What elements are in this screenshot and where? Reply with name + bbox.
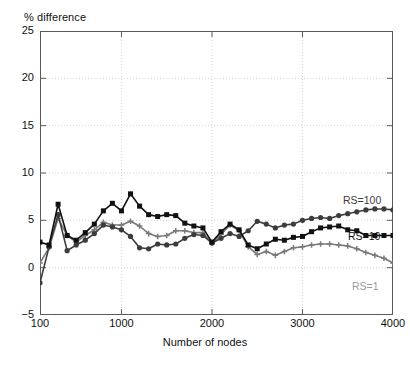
data-point-marker	[191, 232, 196, 237]
data-point-marker	[237, 234, 242, 239]
data-point-marker	[255, 219, 260, 224]
data-point-marker	[336, 242, 342, 248]
data-point-marker	[155, 214, 160, 219]
data-point-marker	[372, 206, 377, 211]
data-point-marker	[219, 229, 224, 234]
data-point-marker	[391, 233, 394, 238]
data-point-marker	[83, 238, 88, 243]
y-axis-title: % difference	[24, 11, 86, 23]
data-point-marker	[309, 216, 314, 221]
data-point-marker	[137, 204, 142, 209]
data-point-marker	[381, 206, 386, 211]
data-point-marker	[300, 218, 305, 223]
data-point-marker	[47, 242, 52, 247]
data-point-marker	[128, 234, 133, 239]
data-point-marker	[291, 235, 296, 240]
data-point-marker	[273, 225, 278, 230]
data-point-marker	[164, 233, 170, 239]
data-point-marker	[318, 241, 324, 247]
data-point-marker	[218, 236, 223, 241]
data-point-marker	[182, 236, 187, 241]
data-point-marker	[119, 222, 125, 228]
data-point-marker	[56, 202, 61, 207]
data-point-marker	[300, 234, 305, 239]
data-point-marker	[336, 224, 341, 229]
data-point-marker	[146, 246, 151, 251]
data-point-marker	[155, 241, 160, 246]
data-point-marker	[246, 242, 251, 247]
data-point-marker	[155, 234, 161, 240]
data-point-marker	[327, 224, 332, 229]
data-point-marker	[173, 228, 179, 234]
data-point-marker	[200, 233, 205, 238]
data-point-marker	[282, 222, 287, 227]
data-point-marker	[390, 207, 393, 212]
x-axis-title: Number of nodes	[0, 336, 410, 348]
data-point-marker	[309, 229, 314, 234]
data-point-marker	[318, 215, 323, 220]
y-tick-label: 0	[0, 262, 34, 273]
data-point-marker	[363, 250, 369, 256]
x-tick-label: 3000	[279, 318, 325, 329]
data-point-marker	[110, 224, 115, 229]
data-point-marker	[300, 244, 306, 250]
data-point-marker	[40, 280, 43, 285]
data-point-marker	[182, 228, 188, 234]
data-point-marker	[345, 243, 351, 249]
data-point-marker	[92, 222, 97, 227]
data-point-marker	[182, 221, 187, 226]
data-point-marker	[264, 242, 269, 247]
data-point-marker	[164, 242, 169, 247]
data-point-marker	[345, 211, 350, 216]
x-tick-label: 2000	[189, 318, 235, 329]
data-point-marker	[291, 222, 296, 227]
data-point-marker	[65, 233, 70, 238]
data-point-marker	[318, 225, 323, 230]
data-point-marker	[273, 253, 279, 259]
plot-canvas	[40, 31, 393, 315]
data-point-marker	[282, 249, 288, 255]
data-point-marker	[264, 222, 269, 227]
y-tick-label: 10	[0, 167, 34, 178]
data-point-marker	[228, 222, 233, 227]
data-point-marker	[191, 224, 196, 229]
data-point-marker	[74, 242, 79, 247]
data-point-marker	[128, 191, 133, 196]
data-point-marker	[173, 241, 178, 246]
data-point-marker	[209, 240, 214, 245]
data-point-marker	[291, 245, 297, 251]
series-label-rs-1: RS=1	[352, 281, 379, 292]
y-tick-label: 25	[0, 25, 34, 36]
data-point-marker	[65, 248, 70, 253]
plot-frame	[41, 32, 393, 315]
data-point-marker	[119, 227, 124, 232]
data-point-marker	[128, 218, 134, 224]
data-point-marker	[200, 225, 205, 230]
data-point-marker	[40, 240, 43, 245]
data-point-marker	[363, 207, 368, 212]
plot-area	[40, 31, 393, 315]
data-point-marker	[354, 209, 359, 214]
data-point-marker	[263, 249, 269, 255]
data-point-marker	[227, 231, 232, 236]
y-tick-label: 20	[0, 72, 34, 83]
data-point-marker	[372, 253, 378, 259]
data-point-marker	[381, 255, 387, 261]
data-point-marker	[137, 245, 142, 250]
x-tick-label: 1000	[98, 318, 144, 329]
data-point-marker	[83, 230, 88, 235]
data-point-marker	[255, 246, 260, 251]
data-point-marker	[92, 231, 97, 236]
data-point-marker	[327, 216, 332, 221]
series-label-rs-10: RS=10	[348, 231, 380, 242]
data-point-marker	[327, 241, 333, 247]
data-point-marker	[119, 208, 124, 213]
data-point-marker	[237, 227, 242, 232]
data-point-marker	[309, 242, 315, 248]
data-point-marker	[282, 238, 287, 243]
data-point-marker	[101, 222, 106, 227]
x-tick-label: 4000	[370, 318, 410, 329]
chart-figure: % difference 2520151050−5 10010002000300…	[0, 0, 410, 365]
series-label-rs-100: RS=100	[343, 195, 381, 206]
data-point-marker	[101, 208, 106, 213]
